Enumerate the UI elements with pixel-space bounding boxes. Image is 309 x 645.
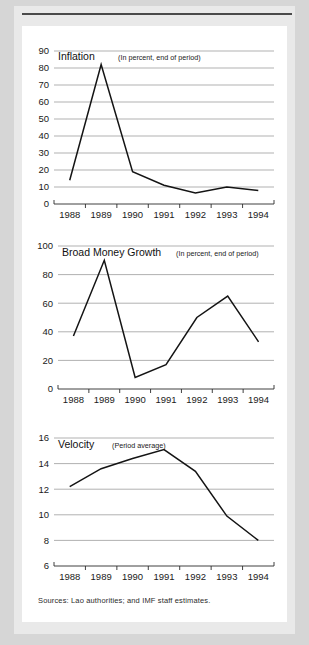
x-axis-tick-label: 1990 (122, 209, 143, 220)
y-axis-tick-label: 40 (42, 326, 53, 337)
x-axis-tick-label: 1989 (91, 571, 112, 582)
velocity-line-chart: 68101214161988198919901991199219931994Ve… (22, 416, 287, 591)
x-axis-tick-label: 1988 (59, 209, 80, 220)
inflation-data-line (70, 65, 259, 193)
y-axis-tick-label: 6 (44, 560, 49, 571)
y-axis-tick-label: 0 (48, 383, 53, 394)
chart-panel-velocity: 68101214161988198919901991199219931994Ve… (22, 416, 287, 591)
x-axis-tick-label: 1988 (59, 571, 80, 582)
top-divider-rule (22, 13, 292, 15)
y-axis-tick-label: 80 (42, 269, 53, 280)
velocity-title: Velocity (58, 438, 95, 450)
x-axis-tick-label: 1993 (216, 571, 237, 582)
y-axis-tick-label: 100 (37, 240, 53, 251)
figure-root: 0102030405060708090198819891990199119921… (0, 0, 309, 645)
y-axis-tick-label: 8 (44, 535, 49, 546)
x-axis-tick-label: 1991 (155, 394, 176, 405)
inflation-title: Inflation (58, 50, 95, 62)
x-axis-tick-label: 1989 (94, 394, 115, 405)
inflation-subtitle: (In percent, end of period) (118, 53, 201, 62)
x-axis-tick-label: 1988 (63, 394, 84, 405)
x-axis-tick-label: 1994 (248, 571, 269, 582)
y-axis-tick-label: 12 (38, 484, 49, 495)
x-axis-tick-label: 1990 (122, 571, 143, 582)
x-axis-tick-label: 1993 (217, 394, 238, 405)
x-axis-tick-label: 1994 (248, 394, 269, 405)
y-axis-tick-label: 60 (38, 96, 49, 107)
y-axis-tick-label: 90 (38, 45, 49, 56)
chart-panel-inflation: 0102030405060708090198819891990199119921… (22, 34, 287, 224)
y-axis-tick-label: 40 (38, 130, 49, 141)
broad-money-growth-subtitle: (In percent, end of period) (176, 249, 259, 258)
y-axis-tick-label: 10 (38, 509, 49, 520)
source-note: Sources: Lao authorities; and IMF staff … (38, 596, 278, 605)
x-axis-tick-label: 1991 (153, 571, 174, 582)
y-axis-tick-label: 70 (38, 79, 49, 90)
y-axis-tick-label: 16 (38, 432, 49, 443)
velocity-data-line (70, 450, 259, 541)
velocity-subtitle: (Period average) (112, 441, 166, 450)
x-axis-tick-label: 1992 (185, 571, 206, 582)
broad-money-growth-title: Broad Money Growth (62, 246, 161, 258)
y-axis-tick-label: 0 (44, 198, 49, 209)
broad-money-growth-line-chart: 0204060801001988198919901991199219931994… (22, 224, 287, 414)
y-axis-tick-label: 60 (42, 298, 53, 309)
x-axis-tick-label: 1991 (153, 209, 174, 220)
x-axis-tick-label: 1992 (186, 394, 207, 405)
y-axis-tick-label: 20 (38, 164, 49, 175)
broad-money-growth-data-line (73, 260, 258, 377)
figure-card: 0102030405060708090198819891990199119921… (22, 26, 287, 622)
y-axis-tick-label: 50 (38, 113, 49, 124)
y-axis-tick-label: 20 (42, 355, 53, 366)
x-axis-tick-label: 1994 (248, 209, 269, 220)
x-axis-tick-label: 1990 (125, 394, 146, 405)
y-axis-tick-label: 80 (38, 62, 49, 73)
y-axis-tick-label: 30 (38, 147, 49, 158)
inflation-line-chart: 0102030405060708090198819891990199119921… (22, 34, 287, 224)
y-axis-tick-label: 14 (38, 458, 49, 469)
x-axis-tick-label: 1992 (185, 209, 206, 220)
chart-panel-broad-money-growth: 0204060801001988198919901991199219931994… (22, 224, 287, 414)
x-axis-tick-label: 1993 (216, 209, 237, 220)
x-axis-tick-label: 1989 (91, 209, 112, 220)
y-axis-tick-label: 10 (38, 181, 49, 192)
